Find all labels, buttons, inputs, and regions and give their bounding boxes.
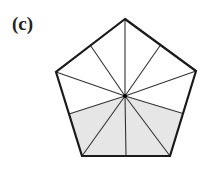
pentagon-diagram xyxy=(0,0,208,170)
center-dot xyxy=(123,94,127,98)
